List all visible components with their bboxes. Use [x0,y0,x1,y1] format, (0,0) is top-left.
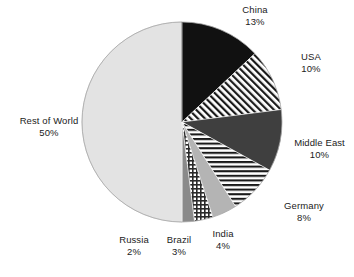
slice-label-germany-name: Germany [268,200,340,212]
slice-label-brazil: Brazil 3% [158,234,200,257]
slice-label-brazil-name: Brazil [158,234,200,246]
slice-label-germany: Germany 8% [268,200,340,223]
slice-label-china: China 13% [216,4,294,27]
slice-label-rest-of-world: Rest of World 50% [8,115,90,138]
slice-label-india: India 4% [205,228,241,251]
slice-label-russia-pct: 2% [110,246,158,258]
slice-label-usa: USA 10% [281,51,341,74]
slice-label-china-pct: 13% [216,16,294,28]
slice-label-russia: Russia 2% [110,234,158,257]
slice-label-usa-name: USA [281,51,341,63]
slice-label-usa-pct: 10% [281,63,341,75]
slice-label-middle-east: Middle East 10% [285,137,354,160]
slice-label-china-name: China [216,4,294,16]
slice-label-rest-of-world-pct: 50% [8,127,90,139]
slice-label-middle-east-pct: 10% [285,149,354,161]
slice-label-india-pct: 4% [205,240,241,252]
slice-label-india-name: India [205,228,241,240]
slice-label-rest-of-world-name: Rest of World [8,115,90,127]
slice-label-middle-east-name: Middle East [285,137,354,149]
slice-label-russia-name: Russia [110,234,158,246]
slice-label-brazil-pct: 3% [158,246,200,258]
slice-label-germany-pct: 8% [268,212,340,224]
pie-chart-figure: China 13% USA 10% Middle East 10% German… [0,0,354,277]
pie-slice-rest-of-world [82,22,182,222]
